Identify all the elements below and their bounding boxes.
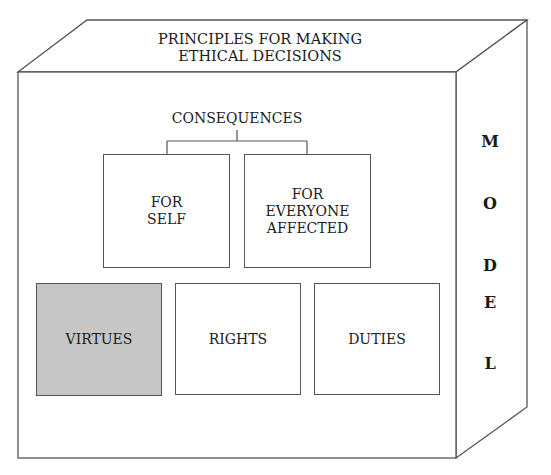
for-self-box: FOR SELF	[103, 154, 230, 268]
consequences-label: CONSEQUENCES	[157, 110, 317, 127]
diagram-title: PRINCIPLES FOR MAKING ETHICAL DECISIONS	[120, 31, 400, 65]
side-letter-m: M	[475, 132, 505, 151]
side-letter-l: L	[475, 354, 505, 373]
side-letter-e: E	[475, 293, 505, 312]
side-letter-d: D	[475, 256, 505, 275]
side-letter-o: O	[475, 194, 505, 213]
rights-box: RIGHTS	[175, 283, 301, 395]
for-everyone-affected-box: FOR EVERYONE AFFECTED	[244, 154, 371, 268]
virtues-box: VIRTUES	[36, 283, 162, 396]
duties-box: DUTIES	[314, 283, 440, 395]
